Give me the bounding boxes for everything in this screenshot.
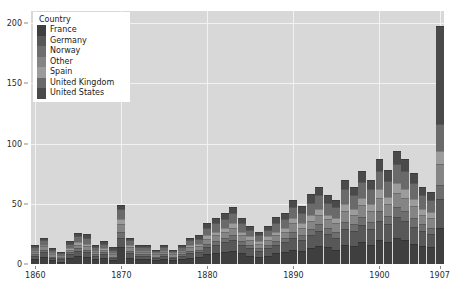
bar-segment xyxy=(117,224,125,231)
x-tick-mark xyxy=(207,266,208,269)
x-tick-mark xyxy=(293,266,294,269)
x-tick-label: 1870 xyxy=(111,271,131,280)
bar-segment xyxy=(393,207,401,217)
bar xyxy=(427,192,435,264)
bar-segment xyxy=(367,245,375,264)
bar-segment xyxy=(419,187,427,195)
bar-segment xyxy=(410,206,418,218)
bar-segment xyxy=(160,259,168,264)
bar xyxy=(315,187,323,264)
bar xyxy=(289,200,297,264)
legend-swatch-icon xyxy=(37,25,46,36)
bar xyxy=(350,187,358,264)
legend-item-united-states[interactable]: United States xyxy=(37,88,124,99)
y-tick-mark xyxy=(24,203,28,204)
bar-segment xyxy=(393,183,401,193)
bar-segment xyxy=(332,207,340,218)
bar-segment xyxy=(350,215,358,225)
bar-segment xyxy=(376,221,384,240)
bar xyxy=(49,248,57,264)
legend-item-label: United Kingdom xyxy=(50,78,114,89)
bar xyxy=(264,225,272,264)
bar-segment xyxy=(324,203,332,215)
bar-segment xyxy=(367,229,375,245)
bar-segment xyxy=(117,209,125,220)
bar xyxy=(169,250,177,264)
bar xyxy=(40,238,48,265)
bar-segment xyxy=(393,164,401,183)
bar xyxy=(307,194,315,264)
bar-segment xyxy=(212,223,220,231)
bar-segment xyxy=(152,260,160,264)
bar-segment xyxy=(367,222,375,229)
y-tick-label: 100 xyxy=(0,139,22,148)
bar-segment xyxy=(410,173,418,184)
bar-segment xyxy=(238,245,246,253)
bar-segment xyxy=(410,227,418,244)
legend-item-label: Other xyxy=(50,57,73,68)
bar-segment xyxy=(221,252,229,264)
y-tick-mark xyxy=(24,264,28,265)
legend-item-label: Germany xyxy=(50,36,87,47)
bar xyxy=(160,245,168,264)
bar-segment xyxy=(203,228,211,235)
bar xyxy=(92,245,100,264)
legend-item-france[interactable]: France xyxy=(37,25,124,36)
bar-segment xyxy=(272,223,280,231)
bar-segment xyxy=(384,216,392,224)
bar-segment xyxy=(410,183,418,199)
bar-segment xyxy=(246,256,254,264)
bar-segment xyxy=(229,213,237,223)
legend-swatch-icon xyxy=(37,78,46,89)
bar-segment xyxy=(289,200,297,207)
bar xyxy=(195,235,203,264)
bar-segment xyxy=(376,198,384,211)
legend-title: Country xyxy=(39,15,124,24)
bar-segment xyxy=(350,224,358,231)
legend-item-other[interactable]: Other xyxy=(37,57,124,68)
bar xyxy=(401,159,409,264)
bar-segment xyxy=(332,223,340,231)
bar xyxy=(358,171,366,264)
legend-swatch-icon xyxy=(37,46,46,57)
bar-segment xyxy=(350,231,358,245)
bar-segment xyxy=(393,217,401,237)
bar-segment xyxy=(436,26,444,125)
bar-segment xyxy=(324,195,332,202)
bar-segment xyxy=(419,224,427,231)
bar-segment xyxy=(376,211,384,221)
bar-segment xyxy=(289,238,297,250)
bar xyxy=(31,245,39,264)
bar-segment xyxy=(203,254,211,264)
bar xyxy=(100,241,108,264)
bar-segment xyxy=(376,240,384,264)
bar-segment xyxy=(393,151,401,164)
bar-segment xyxy=(221,242,229,252)
bar xyxy=(393,151,401,264)
bar-segment xyxy=(341,180,349,190)
bar-segment xyxy=(436,151,444,164)
bar xyxy=(109,247,117,264)
bar-segment xyxy=(401,211,409,221)
legend-item-spain[interactable]: Spain xyxy=(37,67,124,78)
bar-segment xyxy=(367,204,375,211)
bar-segment xyxy=(315,195,323,208)
bar-segment xyxy=(427,218,435,228)
bar-segment xyxy=(410,244,418,264)
bar xyxy=(178,245,186,264)
bar-segment xyxy=(178,259,186,264)
x-tick-mark xyxy=(440,266,441,269)
bar-segment xyxy=(358,242,366,264)
bar-segment xyxy=(298,251,306,264)
bar xyxy=(57,252,65,264)
bar-segment xyxy=(427,192,435,200)
legend-item-germany[interactable]: Germany xyxy=(37,36,124,47)
legend-item-norway[interactable]: Norway xyxy=(37,46,124,57)
y-tick-mark xyxy=(24,23,28,24)
bar-segment xyxy=(298,228,306,235)
bar xyxy=(221,213,229,264)
bar-segment xyxy=(83,257,91,264)
legend-item-united-kingdom[interactable]: United Kingdom xyxy=(37,78,124,89)
bar-segment xyxy=(401,198,409,211)
bar-segment xyxy=(401,171,409,189)
